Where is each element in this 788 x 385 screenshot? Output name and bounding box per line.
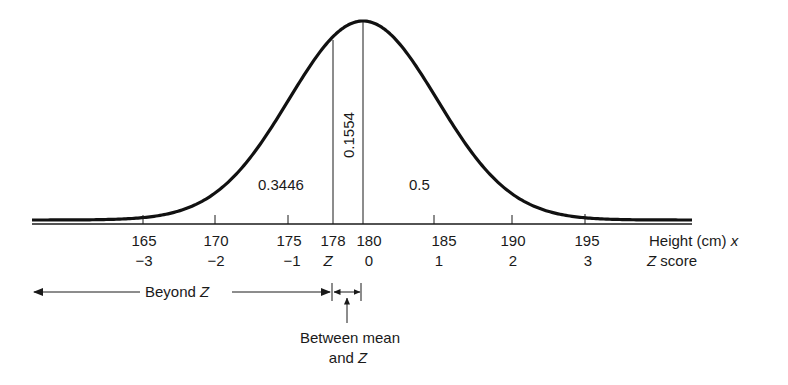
between-label-line1: Between mean (300, 329, 400, 346)
beyond-z-var: Z (199, 283, 210, 300)
x-axis-ticks (143, 214, 585, 224)
tick-label-z: 1 (435, 252, 443, 269)
tick-label-x: 190 (500, 232, 525, 249)
tick-label-z: 2 (509, 252, 517, 269)
beyond-z-label: Beyond Z (145, 283, 210, 300)
between-label-line2: and Z (329, 349, 368, 366)
area-between-label: 0.1554 (340, 112, 357, 158)
x-axis-title: Height (cm) x (649, 232, 739, 249)
area-right-label: 0.5 (409, 176, 430, 193)
normal-distribution-diagram: 0.3446 0.5 0.1554 165 170 175 178 180 18… (0, 0, 788, 385)
between-var: Z (357, 349, 368, 366)
tick-label-z: −2 (207, 252, 224, 269)
tick-label-z: −1 (283, 252, 300, 269)
normal-curve (32, 21, 692, 220)
tick-label-z: 0 (365, 252, 373, 269)
tick-label-x: 195 (574, 232, 599, 249)
z-axis-title-text: score (656, 252, 697, 269)
z-tick-labels: −3 −2 −1 Z 0 1 2 3 (135, 252, 592, 269)
x-axis-title-text: Height (cm) (649, 232, 731, 249)
height-tick-labels: 165 170 175 178 180 185 190 195 (131, 232, 599, 249)
area-left-label: 0.3446 (258, 176, 304, 193)
tick-label-x: 165 (131, 232, 156, 249)
x-axis-var: x (730, 232, 739, 249)
tick-label-x: 175 (276, 232, 301, 249)
tick-label-z: −3 (135, 252, 152, 269)
z-axis-title: Z score (646, 252, 697, 269)
beyond-z-text: Beyond (145, 283, 200, 300)
tick-label-z: 3 (584, 252, 592, 269)
tick-label-x: 180 (356, 232, 381, 249)
tick-label-x: 178 (320, 232, 345, 249)
tick-label-x: 170 (203, 232, 228, 249)
between-text: and (329, 349, 358, 366)
tick-label-z: Z (322, 252, 333, 269)
tick-label-x: 185 (431, 232, 456, 249)
